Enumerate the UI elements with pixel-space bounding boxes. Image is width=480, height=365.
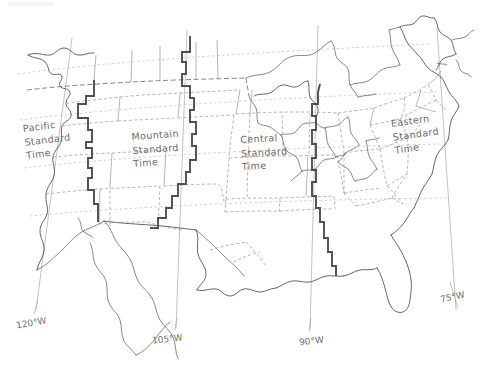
eastern-boundary-north: [318, 84, 320, 92]
map-graphics: .coast{fill:none;stroke:#4a4a4a;stroke-w…: [0, 0, 480, 365]
tick-120w: [34, 300, 38, 314]
time-zone-map: .coast{fill:none;stroke:#4a4a4a;stroke-w…: [0, 0, 480, 365]
pacific-mountain-boundary: [78, 80, 98, 222]
coastlines-west: [28, 48, 178, 359]
meridian-75w: [437, 28, 456, 310]
graticule-meridians: [36, 25, 456, 330]
central-eastern-boundary: [312, 92, 336, 276]
state-borders: [46, 40, 446, 230]
meridian-ticks: [34, 282, 458, 332]
graticule-parallels: [18, 44, 448, 216]
mexico-borders: [99, 222, 266, 276]
tick-75w: [450, 282, 458, 308]
coastlines-gulf-east: [104, 16, 474, 313]
canada-outline-north: [246, 27, 400, 97]
mountain-central-boundary: [150, 36, 196, 228]
